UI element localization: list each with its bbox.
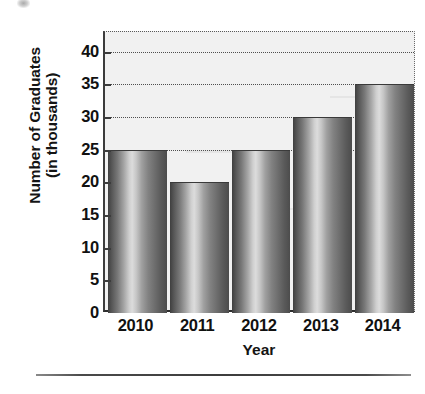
bar bbox=[293, 117, 352, 313]
x-axis-tick-label: 2010 bbox=[106, 316, 165, 335]
x-axis-tick-label: 2013 bbox=[291, 316, 350, 335]
y-axis-tick-mark bbox=[105, 182, 111, 184]
x-axis-title: Year bbox=[103, 341, 415, 359]
y-axis-title-line-1: Number of Graduates bbox=[26, 5, 43, 245]
x-axis-tick-label: 2014 bbox=[353, 316, 412, 335]
y-axis-tick-label: 30 bbox=[56, 106, 99, 125]
bottom-rule bbox=[36, 374, 411, 376]
y-axis-tick-label: 5 bbox=[56, 270, 99, 289]
x-axis-tick-label: 2011 bbox=[168, 316, 227, 335]
y-axis-tick-mark bbox=[105, 117, 111, 119]
y-axis-tick-mark bbox=[105, 215, 111, 217]
y-axis-tick-mark bbox=[105, 248, 111, 250]
x-axis-tick-labels: 20102011201220132014 bbox=[103, 316, 415, 342]
y-axis-tick-mark bbox=[105, 280, 111, 282]
bar bbox=[355, 84, 414, 313]
y-axis-tick-label: 40 bbox=[56, 41, 99, 60]
bars-layer bbox=[105, 32, 414, 310]
y-axis-tick-label: 35 bbox=[56, 74, 99, 93]
bar bbox=[170, 182, 229, 313]
bar bbox=[108, 150, 167, 313]
y-axis-tick-label: 15 bbox=[56, 204, 99, 223]
y-axis-tick-label: 10 bbox=[56, 237, 99, 256]
plot-area bbox=[103, 31, 415, 312]
y-axis-tick-label: 20 bbox=[56, 172, 99, 191]
y-axis-tick-mark bbox=[105, 150, 111, 152]
y-axis-tick-mark bbox=[105, 52, 111, 54]
bar bbox=[232, 150, 291, 313]
y-axis-tick-label: 25 bbox=[56, 139, 99, 158]
y-axis-tick-mark bbox=[105, 84, 111, 86]
y-axis-tick-labels: 0510152025303540 bbox=[56, 0, 99, 394]
y-axis-tick-label: 0 bbox=[56, 303, 99, 322]
x-axis-tick-label: 2012 bbox=[230, 316, 289, 335]
